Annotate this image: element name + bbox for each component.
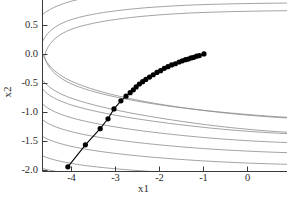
trajectory-markers [65,51,206,169]
trajectory-point [111,106,116,111]
y-tick-marks [43,26,48,171]
contour-level-6 [38,70,287,133]
contour-level-1 [45,11,288,57]
trajectory-point [197,53,202,58]
trajectory-point [123,94,128,99]
y-tick-label-5: -2.0 [6,165,38,176]
contour-level-7 [43,89,287,134]
trajectory-point [83,142,88,147]
trajectory-point [98,126,103,131]
y-tick-label-0: 0.5 [8,20,38,31]
contour-level-3 [41,3,288,47]
plot-canvas [0,0,287,200]
trajectory-point [118,98,123,103]
y-axis-title: x2 [1,77,13,107]
contour-level-4 [41,47,288,119]
trajectory-point [105,116,110,121]
x-axis-title: x1 [0,182,287,194]
contour-trajectory-chart: 0.5 0.0 -0.5 -1.0 -1.5 -2.0 -4 -3 -2 -1 … [0,0,287,200]
trajectory-point [201,51,206,56]
contour-level-8 [43,104,287,143]
trajectory-point [65,164,70,169]
contour-group [31,0,287,183]
y-tick-label-1: 0.0 [8,49,38,60]
y-tick-label-3: -1.0 [6,107,38,118]
y-tick-label-4: -1.5 [6,136,38,147]
